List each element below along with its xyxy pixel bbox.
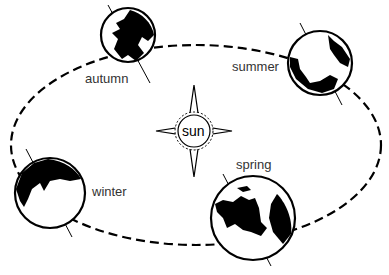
summer-label: summer (232, 60, 279, 73)
earth-winter-icon (15, 149, 85, 237)
earth-spring-icon (211, 174, 295, 266)
orbit-diagram: sun autumn summer winter spring (0, 0, 389, 275)
autumn-label: autumn (85, 72, 128, 85)
winter-label: winter (92, 185, 127, 198)
spring-label: spring (236, 158, 271, 171)
sun-label: sun (182, 124, 205, 138)
earth-summer-icon (288, 23, 352, 105)
